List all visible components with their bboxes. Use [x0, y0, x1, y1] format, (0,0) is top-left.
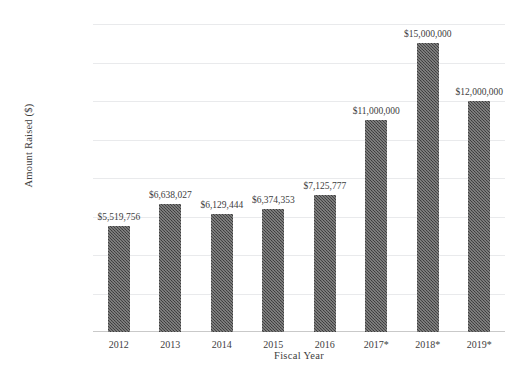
x-axis-tick-label: 2013 — [160, 332, 180, 350]
bar-value-label: $15,000,000 — [404, 29, 452, 39]
y-axis-title: Amount Raised ($) — [23, 71, 34, 221]
bar-group: $15,000,0002018* — [402, 24, 454, 332]
bar — [108, 226, 130, 332]
x-axis-tick-label: 2016 — [315, 332, 335, 350]
bar — [159, 204, 181, 332]
bar — [417, 43, 439, 332]
bar-value-label: $6,374,353 — [252, 195, 295, 205]
bar-group: $6,129,4442014 — [196, 24, 248, 332]
bar-value-label: $12,000,000 — [456, 87, 504, 97]
x-axis-tick-label: 2017* — [364, 332, 389, 350]
x-axis-tick-label: 2018* — [415, 332, 440, 350]
plot-area: $16,000,000$14,000,000$12,000,000$10,000… — [93, 24, 505, 332]
bar — [262, 209, 284, 332]
x-axis-tick-label: 2012 — [109, 332, 129, 350]
bar-value-label: $7,125,777 — [303, 181, 346, 191]
bar-group: $11,000,0002017* — [351, 24, 403, 332]
bar — [365, 120, 387, 332]
bar — [468, 101, 490, 332]
x-axis-tick-label: 2019* — [467, 332, 492, 350]
x-axis-title: Fiscal Year — [93, 350, 505, 361]
bar-group: $12,000,0002019* — [454, 24, 506, 332]
bar-value-label: $11,000,000 — [353, 106, 400, 116]
bar-value-label: $5,519,756 — [97, 212, 140, 222]
bar-value-label: $6,129,444 — [200, 200, 243, 210]
bar-group: $6,638,0272013 — [145, 24, 197, 332]
x-axis-tick-label: 2015 — [263, 332, 283, 350]
bar-group: $6,374,3532015 — [248, 24, 300, 332]
x-axis-tick-label: 2014 — [212, 332, 232, 350]
bar-group: $5,519,7562012 — [93, 24, 145, 332]
bar-group: $7,125,7772016 — [299, 24, 351, 332]
bar-value-label: $6,638,027 — [149, 190, 192, 200]
bar — [314, 195, 336, 332]
bar-chart: Amount Raised ($) $16,000,000$14,000,000… — [0, 0, 520, 380]
bar — [211, 214, 233, 332]
